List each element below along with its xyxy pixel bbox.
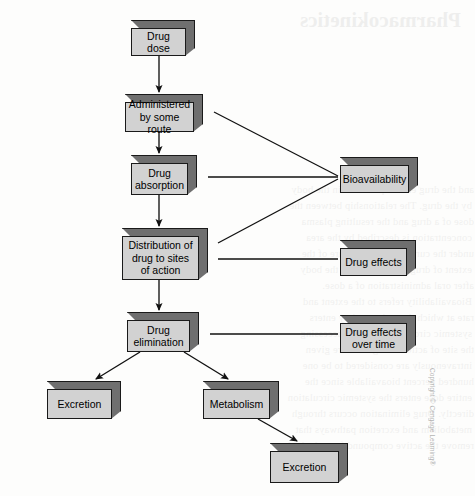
node-distribution: Distribution ofdrug to sitesof action	[122, 228, 208, 280]
node-label-text: Excretion	[58, 398, 102, 410]
node-absorption: Drugabsorption	[131, 155, 197, 195]
node-label: Drug effects	[340, 248, 407, 276]
node-label-text: Drugabsorption	[135, 167, 184, 192]
bleed-heading: Pharmacokinetics	[300, 8, 461, 33]
node-label: Drugelimination	[127, 320, 190, 352]
edge-elimination-to-excretion	[96, 352, 140, 379]
node-side-face	[187, 155, 197, 195]
node-label-text: Drug dose	[135, 30, 182, 55]
node-side-face	[185, 20, 195, 56]
node-effects_over_time: Drug effectsover time	[340, 315, 416, 353]
node-excretion_bottom: Excretion	[270, 443, 348, 483]
node-side-face	[406, 315, 416, 353]
bleed-line: Bioavailability refers to the extent and	[2, 296, 472, 307]
node-label-text: Drugelimination	[133, 324, 183, 349]
node-label-text: Drug effects	[345, 256, 401, 268]
node-administered: Administeredby some route	[125, 94, 203, 132]
node-label: Drug effectsover time	[340, 323, 407, 353]
node-side-face	[408, 157, 418, 193]
bleed-line: metabolism and excretion pathways that	[2, 424, 472, 435]
diagram-page: Pharmacokineticsand the drug effects pro…	[0, 0, 475, 496]
bleed-line: intravenously are considered to be one	[2, 360, 472, 371]
bleed-line: by the drug. The relationship between th…	[2, 200, 472, 211]
bleed-line: dose of a drug and the resulting plasma	[4, 216, 474, 227]
bleed-line: after oral administration of a dose.	[4, 280, 474, 291]
node-side-face	[193, 94, 203, 132]
node-side-face	[406, 240, 416, 276]
node-side-face	[269, 381, 279, 419]
node-label-text: Bioavailability	[343, 173, 407, 185]
edge-elimination-to-metabolism	[184, 352, 228, 379]
node-drug_effects: Drug effects	[340, 240, 416, 276]
node-label-text: Excretion	[283, 461, 327, 473]
node-label: Bioavailability	[340, 165, 409, 193]
node-label-text: Metabolism	[210, 398, 264, 410]
node-side-face	[338, 443, 348, 483]
edge-administered-to-bioavailability	[214, 112, 338, 176]
node-side-face	[189, 312, 199, 352]
node-label: Metabolism	[203, 389, 270, 419]
node-label-text: Distribution ofdrug to sitesof action	[128, 239, 192, 276]
node-elimination: Drugelimination	[127, 312, 199, 352]
node-side-face	[111, 381, 121, 419]
node-drug_dose: Drug dose	[131, 20, 195, 56]
edge-metabolism-to-excretion	[258, 419, 297, 441]
node-label: Drug dose	[131, 28, 186, 56]
node-label: Administeredby some route	[125, 102, 194, 132]
node-metabolism: Metabolism	[203, 381, 279, 419]
node-label: Distribution ofdrug to sitesof action	[122, 236, 199, 280]
node-label-text: Drug effectsover time	[345, 326, 401, 351]
node-label-text: Administeredby some route	[129, 98, 190, 135]
node-side-face	[198, 228, 208, 280]
edge-distribution-to-bioavailability	[218, 179, 338, 243]
bleed-line: remove the active compound from the body…	[4, 440, 474, 451]
node-label: Excretion	[270, 451, 339, 483]
node-label: Drugabsorption	[131, 163, 188, 195]
node-bioavailability: Bioavailability	[340, 157, 418, 193]
copyright-notice: Copyright © Cengage Learning®	[429, 368, 436, 480]
node-excretion_left: Excretion	[47, 381, 121, 419]
node-label: Excretion	[47, 389, 112, 419]
